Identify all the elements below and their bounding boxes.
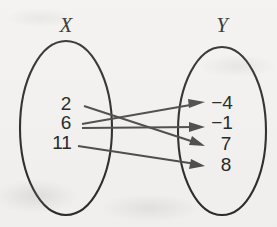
- set-y-label: Y: [216, 13, 230, 37]
- set-x-element-2: 11: [52, 132, 72, 153]
- mapping-diagram-canvas: X Y 2 6 11 −4 −1 7 8: [0, 0, 277, 227]
- set-y-element-1: −1: [211, 112, 233, 133]
- arrow-2-to-7: [84, 106, 205, 146]
- set-x-element-1: 6: [61, 112, 72, 133]
- set-y-element-0: −4: [211, 92, 233, 113]
- mapping-diagram: X Y 2 6 11 −4 −1 7 8: [0, 0, 277, 227]
- arrow-11-to-8: [78, 146, 205, 169]
- set-x-element-0: 2: [61, 93, 72, 114]
- set-y-element-3: 8: [221, 154, 232, 175]
- set-x-label: X: [59, 13, 74, 37]
- set-y-element-2: 7: [221, 133, 232, 154]
- arrow-6-to-minus1: [82, 122, 205, 132]
